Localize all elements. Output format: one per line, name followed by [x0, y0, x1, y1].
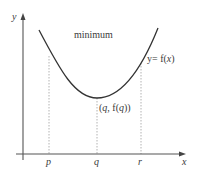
x-axis-label: x — [181, 156, 187, 167]
curve-label: y= f(x) — [147, 53, 175, 65]
minimum-annotation: minimum — [74, 29, 113, 40]
function-graph: y x minimum y= f(x) (q, f(q)) p q r — [0, 0, 199, 179]
tick-label-p: p — [45, 156, 51, 167]
y-axis-label: y — [11, 11, 17, 22]
tick-label-q: q — [94, 156, 99, 167]
tick-label-r: r — [138, 156, 142, 167]
y-axis-arrow-icon — [21, 13, 26, 20]
minimum-point-label: (q, f(q)) — [99, 102, 131, 114]
